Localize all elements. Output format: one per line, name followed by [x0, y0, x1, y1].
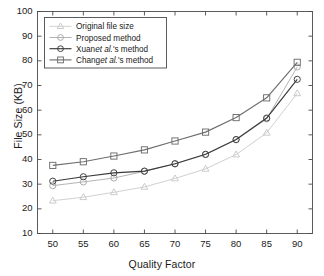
x-axis-tick-label: 75 [193, 238, 219, 249]
legend: Original file sizeProposed methodXuanet … [45, 18, 167, 69]
data-point-marker [233, 151, 240, 157]
legend-item-label: Proposed method [76, 34, 141, 43]
x-axis-tick-label: 50 [40, 238, 66, 249]
series-line [53, 67, 297, 186]
series-0 [49, 90, 300, 203]
y-axis-tick-label: 50 [7, 128, 33, 139]
x-axis-tick-label: 55 [70, 238, 96, 249]
x-axis-tick-label: 60 [101, 238, 127, 249]
data-point-marker [202, 165, 209, 171]
series-2 [50, 76, 301, 184]
y-axis-tick-label: 80 [7, 54, 33, 65]
x-axis-tick-label: 65 [131, 238, 157, 249]
series-line [53, 62, 297, 165]
y-axis-tick-label: 70 [7, 79, 33, 90]
y-axis-tick-label: 10 [7, 227, 33, 238]
series-line [53, 79, 297, 181]
x-axis-tick-label: 85 [254, 238, 280, 249]
y-axis-tick-label: 60 [7, 104, 33, 115]
legend-item-label: Xuanet al.'s method [76, 45, 149, 54]
series-1 [50, 64, 301, 189]
data-point-marker [294, 90, 301, 96]
y-axis-tick-label: 20 [7, 202, 33, 213]
x-axis-tick-label: 70 [162, 238, 188, 249]
y-axis-tick-label: 100 [7, 5, 33, 16]
legend-item-label: Original file size [76, 22, 134, 31]
x-axis-tick-label: 80 [223, 238, 249, 249]
series-3 [50, 59, 301, 168]
plot-canvas: Original file sizeProposed methodXuanet … [0, 0, 324, 276]
y-axis-tick-label: 40 [7, 153, 33, 164]
chart-figure: File Size (KB) Quality Factor Original f… [0, 0, 324, 276]
x-axis-tick-label: 90 [284, 238, 310, 249]
series-line [53, 93, 297, 200]
y-axis-tick-label: 90 [7, 30, 33, 41]
y-axis-tick-label: 30 [7, 178, 33, 189]
legend-item-label: Changet al.'s method [76, 56, 154, 65]
